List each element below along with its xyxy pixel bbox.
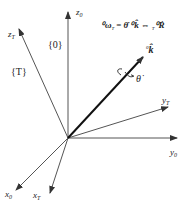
xT-label: xT: [32, 190, 41, 201]
xT-axis: [50, 138, 68, 193]
diagram-canvas: z0 {0} {T} zT yT y0 x0 xT 0k̂ θ̇ ⁰ωT=θ̇ …: [0, 0, 185, 205]
k-hat-label: 0k̂: [146, 43, 154, 55]
yT-label: yT: [161, 95, 170, 106]
rotation-axis-k: [68, 57, 143, 138]
theta-dot-label: θ̇: [136, 73, 144, 84]
tool-frame-label: {T}: [11, 66, 27, 77]
zT-label: zT: [7, 29, 16, 40]
frame-diagram: z0 {0} {T} zT yT y0 x0 xT 0k̂ θ̇ ⁰ωT=θ̇ …: [0, 0, 185, 205]
world-frame-label: {0}: [48, 39, 63, 50]
z0-label: z0: [75, 7, 83, 18]
equation: ⁰ωT=θ̇ ⁰k̂⇔T⁰Ṙ: [101, 19, 165, 31]
y0-label: y0: [169, 147, 177, 158]
x0-axis: [16, 138, 68, 190]
x0-label: x0: [4, 189, 12, 200]
